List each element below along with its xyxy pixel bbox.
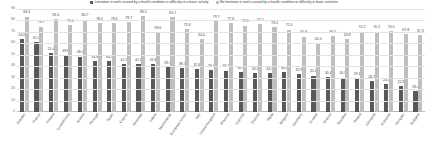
- y-axis-tick-label: 10: [11, 99, 15, 103]
- bar-group: 22.867.8: [396, 9, 411, 112]
- legend-label-no-limitation: No limitation in work caused by a health…: [220, 1, 338, 4]
- bar-value-label: 79.7: [213, 16, 220, 20]
- bar-value-label: 70.2: [359, 26, 366, 30]
- bar[interactable]: 74.0: [272, 27, 276, 112]
- y-axis-tick-label: 70: [11, 30, 15, 34]
- bar-group: 39.283.2: [163, 9, 178, 112]
- category-label-text: Latvia: [150, 113, 158, 123]
- x-axis-category-label: Poland: [352, 112, 367, 152]
- bar[interactable]: 44.3: [107, 61, 111, 112]
- bar-group: 48.480.7: [75, 9, 90, 112]
- chart-legend: Limitation in work caused by a health co…: [0, 1, 428, 4]
- category-label-text: Czechia: [236, 113, 246, 126]
- category-label-text: Malta: [267, 113, 275, 122]
- bar[interactable]: 72.8: [185, 29, 189, 112]
- category-label-text: Greece: [324, 113, 334, 125]
- x-axis-category-label: Luxembourg: [61, 112, 76, 152]
- bar-value-label: 70.4: [388, 26, 395, 30]
- bar-value-label: 64.0: [198, 34, 205, 38]
- bar[interactable]: 30.1: [341, 78, 345, 112]
- gridline: [17, 32, 425, 33]
- bar[interactable]: 83.5: [141, 16, 145, 112]
- x-axis-category-label: Denmark: [134, 112, 149, 152]
- bar-series-group: 64.083.461.074.751.481.049.875.648.480.7…: [17, 9, 425, 112]
- bar-value-label: 69.6: [154, 27, 161, 31]
- bar[interactable]: 77.0: [258, 24, 262, 112]
- bar[interactable]: 49.8: [64, 55, 68, 112]
- gridline: [17, 101, 425, 102]
- bar[interactable]: 37.6: [195, 69, 199, 112]
- bar[interactable]: 51.4: [49, 53, 53, 112]
- bar-value-label: 70.2: [373, 26, 380, 30]
- bar-group: 41.869.6: [148, 9, 163, 112]
- bar-group: 64.083.4: [17, 9, 32, 112]
- bar[interactable]: 78.0: [112, 23, 116, 112]
- category-label-text: Finland: [47, 113, 57, 125]
- bar-group: 41.978.7: [119, 9, 134, 112]
- bar-group: 36.277.8: [221, 9, 236, 112]
- bar[interactable]: 36.4: [209, 70, 213, 112]
- bar-group: 41.883.5: [134, 9, 149, 112]
- x-axis-category-label: Bulgaria: [411, 112, 426, 152]
- bar-group: 44.878.0: [90, 9, 105, 112]
- gridline: [17, 89, 425, 90]
- category-label-text: Germany: [293, 113, 304, 127]
- gridline: [17, 20, 425, 21]
- legend-item-no-limitation[interactable]: No limitation in work caused by a health…: [216, 1, 338, 4]
- bar[interactable]: 77.8: [229, 23, 233, 112]
- bar-value-label: 80.7: [82, 14, 89, 18]
- bar-group: 30.163.8: [338, 9, 353, 112]
- legend-item-limitation[interactable]: Limitation in work caused by a health co…: [90, 1, 208, 4]
- x-axis-category-label: Estonia: [250, 112, 265, 152]
- bar-group: 51.481.0: [46, 9, 61, 112]
- x-axis-category-labels: SwedenFranceFinlandLuxembourgAustriaPort…: [17, 112, 425, 152]
- category-label-text: Cyprus: [120, 113, 129, 124]
- bar-value-label: 72.0: [286, 24, 293, 28]
- category-label-text: Slovenia: [220, 113, 231, 126]
- bar[interactable]: 75.5: [243, 26, 247, 112]
- bar[interactable]: 75.6: [68, 25, 72, 112]
- category-label-text: Croatia: [309, 113, 319, 125]
- category-label-text: Belgium: [279, 113, 289, 126]
- y-axis-tick-label: 0: [13, 110, 15, 114]
- gridline: [17, 43, 425, 44]
- x-axis-category-label: Czechia: [236, 112, 251, 152]
- chart-container: Limitation in work caused by a health co…: [0, 0, 428, 152]
- x-axis-category-label: Cyprus: [119, 112, 134, 152]
- bar[interactable]: 30.4: [326, 77, 330, 112]
- bar-value-label: 74.7: [38, 21, 45, 25]
- bar[interactable]: 41.8: [136, 64, 140, 112]
- bar-group: 38.772.8: [177, 9, 192, 112]
- bar-group: 31.860.3: [309, 9, 324, 112]
- bar[interactable]: 78.0: [98, 23, 102, 112]
- gridline: [17, 78, 425, 79]
- bar[interactable]: 48.4: [78, 57, 82, 112]
- x-axis-category-label: Latvia: [148, 112, 163, 152]
- category-label-text: Poland: [353, 113, 362, 124]
- bar-value-label: 83.2: [169, 12, 176, 16]
- x-axis-category-label: Germany: [294, 112, 309, 152]
- bar[interactable]: 29.8: [355, 78, 359, 112]
- bar-group: 61.074.7: [32, 9, 47, 112]
- legend-swatch-light-icon: [216, 1, 219, 4]
- bar-group: 44.378.0: [104, 9, 119, 112]
- bar[interactable]: 41.8: [151, 64, 155, 112]
- x-axis-category-label: Romania: [381, 112, 396, 152]
- category-label-text: Italy: [195, 113, 202, 120]
- bar[interactable]: 41.9: [122, 64, 126, 112]
- gridline: [17, 66, 425, 67]
- x-axis-category-label: Hungary: [396, 112, 411, 152]
- category-label-text: France: [32, 113, 41, 124]
- bar-value-label: 74.0: [271, 22, 278, 26]
- bar[interactable]: 26.7: [370, 81, 374, 112]
- bar[interactable]: 83.4: [25, 17, 29, 112]
- bar[interactable]: 31.8: [311, 76, 315, 112]
- bar[interactable]: 74.7: [39, 27, 43, 112]
- x-axis-category-label: Croatia: [309, 112, 324, 152]
- x-axis-category-label: Greece: [323, 112, 338, 152]
- category-label-text: Lithuania: [366, 113, 377, 127]
- bar[interactable]: 44.8: [93, 61, 97, 112]
- legend-label-limitation: Limitation in work caused by a health co…: [95, 1, 209, 4]
- y-axis-tick-label: 20: [11, 87, 15, 91]
- bar[interactable]: 32.9: [297, 74, 301, 112]
